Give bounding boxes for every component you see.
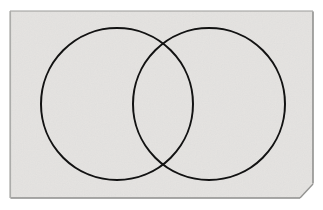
figure-root	[0, 0, 323, 210]
venn-diagram-canvas	[0, 0, 323, 210]
paper-sheet	[10, 11, 313, 198]
